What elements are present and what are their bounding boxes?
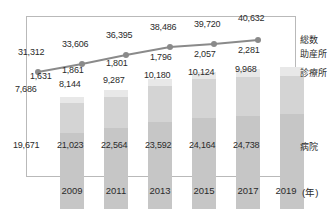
x-tick-label: 2013 <box>136 185 184 196</box>
chart-canvas: 31,312 33,606 36,395 38,486 39,720 40,63… <box>0 0 334 209</box>
hospital-value-label: 19,671 <box>13 140 39 150</box>
bar-segment-clinic <box>104 97 128 128</box>
hospital-value-label: 23,592 <box>145 140 171 150</box>
clinic-value-label: 9,968 <box>235 64 257 74</box>
total-value-label: 40,632 <box>238 13 264 23</box>
midwifery-value-label: 1,631 <box>30 71 52 81</box>
bar-segment-clinic <box>148 86 172 122</box>
midwifery-value-label: 1,861 <box>62 65 84 75</box>
total-value-label: 38,486 <box>150 22 176 32</box>
bar-segment-midwifery <box>60 97 84 103</box>
clinic-value-label: 10,180 <box>144 70 170 80</box>
clinic-value-label: 8,144 <box>59 79 81 89</box>
legend-item-total: 総数 <box>300 33 318 46</box>
x-tick-label: 2009 <box>48 185 96 196</box>
midwifery-value-label: 2,057 <box>194 49 216 59</box>
midwifery-value-label: 1,796 <box>150 52 172 62</box>
legend-item-hospital: 病院 <box>300 140 318 153</box>
hospital-value-label: 24,738 <box>233 140 259 150</box>
clinic-value-label: 7,686 <box>15 84 37 94</box>
total-value-label: 39,720 <box>194 19 220 29</box>
total-value-label: 36,395 <box>106 30 132 40</box>
bar-segment-clinic <box>192 79 216 118</box>
clinic-value-label: 9,287 <box>103 75 125 85</box>
hospital-value-label: 24,164 <box>189 140 215 150</box>
midwifery-value-label: 2,281 <box>238 45 260 55</box>
hospital-value-label: 21,023 <box>57 140 83 150</box>
legend-item-midwifery: 助産所 <box>300 47 327 60</box>
x-axis-unit-label: (年) <box>302 185 318 199</box>
bar-segment-clinic <box>60 103 84 133</box>
bar-segment-clinic <box>280 76 304 114</box>
legend-item-clinic: 診療所 <box>300 66 327 79</box>
bar-segment-clinic <box>236 77 260 116</box>
x-tick-label: 2015 <box>180 185 228 196</box>
total-value-label: 33,606 <box>62 39 88 49</box>
bar-segment-midwifery <box>148 79 172 86</box>
total-value-label: 31,312 <box>18 47 44 57</box>
bar-segment-midwifery <box>104 90 128 97</box>
clinic-value-label: 10,124 <box>188 67 214 77</box>
hospital-value-label: 22,564 <box>101 140 127 150</box>
midwifery-value-label: 1,801 <box>106 58 128 68</box>
x-tick-label: 2011 <box>92 185 140 196</box>
